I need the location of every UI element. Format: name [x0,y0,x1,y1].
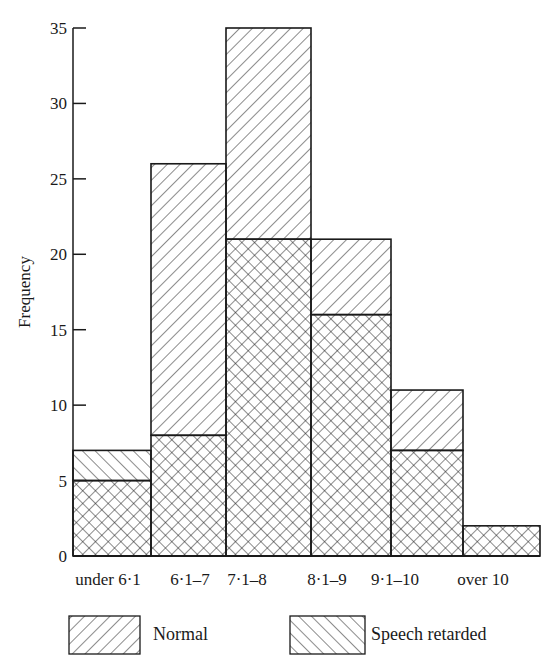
bar-normal-excess [311,239,391,314]
bar-overlap [463,526,540,556]
bar-overlap [73,481,151,556]
bar-overlap [151,435,226,556]
y-tick-label: 10 [50,396,67,415]
histogram-bar [463,526,540,556]
y-tick-label: 15 [50,321,67,340]
legend-swatch-speech-retarded [290,616,365,654]
x-tick-label: 6·1–7 [170,570,210,589]
legend-label-speech-retarded: Speech retarded [371,624,486,644]
bar-normal-excess [226,28,311,239]
x-tick-label: 8·1–9 [307,570,347,589]
legend-label-normal: Normal [153,624,208,644]
y-tick-label: 30 [50,94,67,113]
histogram-bar [391,390,463,556]
histogram-bar [311,239,391,556]
y-tick-label: 20 [50,245,67,264]
x-tick-label: 7·1–8 [227,570,267,589]
bar-overlap [311,315,391,556]
y-tick-label: 35 [50,19,67,38]
y-tick-label: 5 [59,472,68,491]
bars [73,28,540,556]
bar-overlap [391,450,463,556]
x-tick-label: under 6·1 [75,570,141,589]
histogram-bar [151,164,226,556]
histogram-bar [226,28,311,556]
legend-swatch-normal [69,616,140,654]
bar-normal-excess [391,390,463,450]
x-tick-label: over 10 [457,570,508,589]
y-tick-label: 25 [50,170,67,189]
histogram-bar [73,450,151,556]
bar-overlap [226,239,311,556]
y-axis-label: Frequency [15,256,34,328]
x-tick-label: 9·1–10 [371,570,419,589]
x-axis-labels: under 6·16·1–77·1–88·1–99·1–10over 10 [75,570,509,589]
y-tick-label: 0 [59,547,68,566]
bar-speech-excess [73,450,151,480]
histogram-chart: 05101520253035 under 6·16·1–77·1–88·1–99… [0,0,557,668]
bar-normal-excess [151,164,226,436]
legend: Normal Speech retarded [69,616,486,654]
